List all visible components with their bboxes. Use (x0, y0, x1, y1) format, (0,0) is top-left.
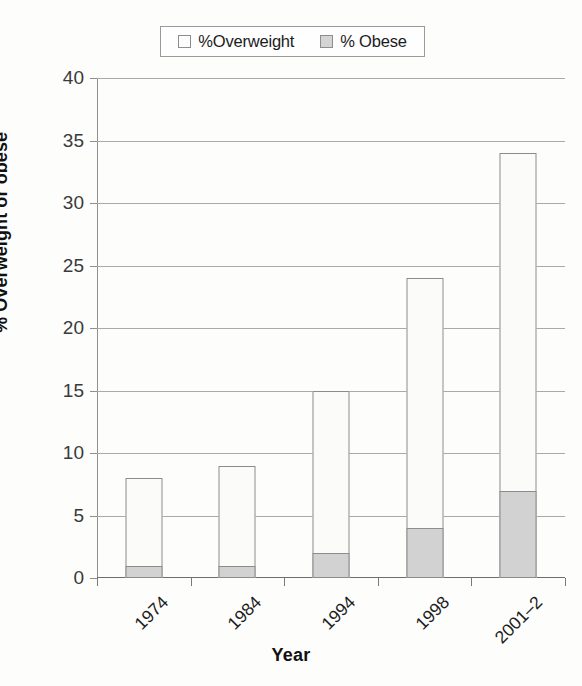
x-axis-label: 1994 (317, 592, 359, 634)
legend-label-obese: % Obese (340, 32, 406, 51)
y-axis-tick-label: 0 (73, 567, 84, 589)
bar-segment-obese (313, 553, 350, 578)
y-axis-tick-label: 5 (73, 505, 84, 527)
chart-page: %Overweight % Obese 0510152025303540 197… (0, 0, 582, 686)
bar-segment-overweight (313, 391, 350, 579)
x-axis-tick (565, 578, 566, 586)
legend-item-obese: % Obese (320, 32, 406, 51)
x-axis-tick (191, 578, 192, 586)
x-axis-label: 2001–2 (491, 592, 547, 648)
gridline (97, 141, 565, 142)
y-axis-tick-label: 30 (63, 192, 84, 214)
gridline (97, 328, 565, 329)
gridline (97, 266, 565, 267)
bar-1974 (125, 478, 162, 578)
gridline (97, 78, 565, 79)
y-axis-tick (90, 391, 97, 392)
bar-segment-obese (500, 491, 537, 579)
y-axis-title: % Overweight or obese (0, 132, 12, 333)
x-axis-title: Year (0, 645, 582, 666)
y-axis-tick (90, 266, 97, 267)
y-axis-tick-label: 20 (63, 317, 84, 339)
bar-1998 (406, 278, 443, 578)
bar-segment-obese (406, 528, 443, 578)
x-axis-tick (471, 578, 472, 586)
y-axis-tick (90, 516, 97, 517)
bar-20012 (500, 153, 537, 578)
bar-segment-overweight (125, 478, 162, 578)
x-axis-tick (97, 578, 98, 586)
legend-item-overweight: %Overweight (178, 32, 294, 51)
x-axis-label: 1974 (130, 592, 172, 634)
x-axis-label: 1998 (411, 592, 453, 634)
y-axis-tick (90, 453, 97, 454)
y-axis-tick (90, 78, 97, 79)
bar-1994 (313, 391, 350, 579)
y-axis-tick-label: 25 (63, 255, 84, 277)
y-axis-tick (90, 141, 97, 142)
x-axis-tick (284, 578, 285, 586)
plot-area: 0510152025303540 (97, 78, 565, 578)
y-axis-tick-label: 40 (63, 67, 84, 89)
x-axis-tick (378, 578, 379, 586)
y-axis-tick (90, 203, 97, 204)
gridline (97, 203, 565, 204)
bar-segment-obese (125, 566, 162, 579)
chart-legend: %Overweight % Obese (160, 26, 425, 57)
bar-1984 (219, 466, 256, 579)
y-axis-tick (90, 578, 97, 579)
y-axis-tick-label: 10 (63, 442, 84, 464)
y-axis-tick (90, 328, 97, 329)
legend-swatch-overweight-icon (178, 35, 191, 48)
legend-label-overweight: %Overweight (198, 32, 294, 51)
bar-segment-obese (219, 566, 256, 579)
y-axis-tick-label: 35 (63, 130, 84, 152)
legend-swatch-obese-icon (320, 35, 333, 48)
x-axis-label: 1984 (224, 592, 266, 634)
y-axis-tick-label: 15 (63, 380, 84, 402)
bar-segment-overweight (219, 466, 256, 579)
